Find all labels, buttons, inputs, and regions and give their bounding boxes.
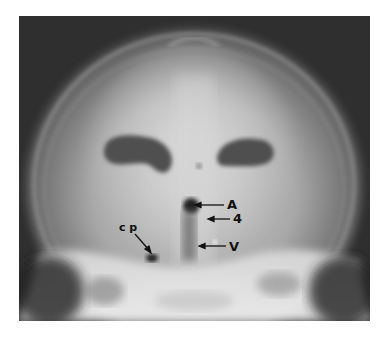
skull-xray-figure: A 4 V c p	[19, 16, 370, 321]
label-4: 4	[233, 212, 242, 225]
label-cp: c p	[119, 222, 137, 233]
xray-image	[19, 16, 370, 321]
label-v: V	[229, 240, 239, 253]
label-a: A	[227, 198, 237, 211]
